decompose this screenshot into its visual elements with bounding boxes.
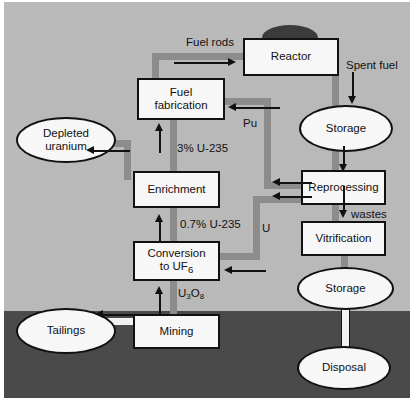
edge-label-enriched-uranium: 3% U-235 [177,142,228,155]
pipe-mining-conv [170,276,177,318]
node-reactor-label: Reactor [271,50,311,63]
node-storage-waste-label: Storage [325,282,365,295]
pipe-enrich-fuelfab [170,112,177,174]
node-conversion[interactable]: Conversion to UF6 [133,241,220,281]
node-depleted-uranium-label-1: Depleted [43,127,89,140]
edge-label-spent-fuel: Spent fuel [346,59,398,72]
node-mining[interactable]: Mining [133,314,220,349]
arrow-tailings [95,310,135,319]
node-depleted-uranium-label-2: uranium [45,140,87,153]
arrow-uranium-lower [272,192,312,201]
arrow-spent-fuel [348,72,357,104]
edge-label-plutonium: Pu [243,117,257,130]
node-fuel-fabrication-label-2: fabrication [154,99,207,112]
arrow-enriched-uranium [155,123,164,153]
node-fuel-fabrication[interactable]: Fuel fabrication [137,78,225,120]
arrow-uranium-to-conversion [224,266,266,275]
node-conversion-label-2: to UF6 [160,260,193,275]
arrow-fuel-rods [174,58,236,67]
node-storage-waste[interactable]: Storage [297,267,394,310]
node-fuel-fabrication-label-1: Fuel [170,86,192,99]
node-conversion-label-1: Conversion [147,247,205,260]
node-mining-label: Mining [160,325,194,338]
edge-label-fuel-rods: Fuel rods [186,36,234,49]
arrow-wastes [339,186,348,218]
edge-label-natural-uranium: 0.7% U-235 [180,218,241,231]
arrow-depleted-uranium [86,146,130,155]
arrow-uranium-upper [272,178,312,187]
arrow-yellowcake [155,286,164,314]
node-storage-spent-fuel[interactable]: Storage [299,105,393,152]
arrow-storage-reprocessing [339,146,348,172]
node-depleted-uranium[interactable]: Depleted uranium [16,117,116,163]
node-disposal-label: Disposal [322,361,366,374]
arrow-natural-uranium [155,214,164,242]
pipe-u-down [253,196,260,260]
node-vitrification[interactable]: Vitrification [301,221,386,256]
pipe-u-to-conversion [214,253,260,260]
edge-label-uranium: U [262,222,270,235]
node-enrichment[interactable]: Enrichment [133,171,220,208]
node-storage-spent-fuel-label: Storage [326,122,366,135]
edge-label-wastes: wastes [351,208,387,221]
node-reactor[interactable]: Reactor [243,38,339,76]
node-tailings-label: Tailings [47,324,85,337]
node-enrichment-label: Enrichment [147,183,205,196]
pipe-conv-enrich [170,204,177,246]
node-vitrification-label: Vitrification [315,232,371,245]
edge-label-yellowcake: U3O8 [178,287,204,302]
fuel-cycle-diagram: Reactor Fuel fabrication Depleted uraniu… [0,0,417,411]
node-disposal[interactable]: Disposal [297,346,391,390]
arrow-plutonium [228,103,280,112]
